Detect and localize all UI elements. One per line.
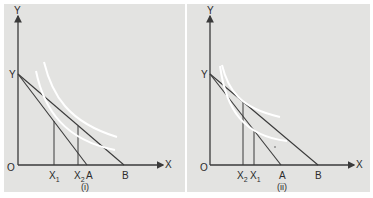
y-axis-label: Y	[207, 6, 214, 16]
point-a-label: A	[86, 171, 93, 181]
stray-dot	[274, 146, 276, 148]
budget-line-yb	[210, 74, 318, 165]
point-b-label: B	[315, 171, 322, 181]
panel-ii-caption: (ii)	[277, 182, 287, 192]
budget-line-diagram	[0, 0, 373, 198]
origin-label: O	[200, 163, 208, 173]
x1-label: X1	[49, 171, 60, 183]
point-a-label: A	[279, 171, 286, 181]
y-axis-label: Y	[14, 6, 21, 16]
point-b-label: B	[122, 171, 129, 181]
indifference-curve-lower	[36, 71, 115, 150]
x-axis-label: X	[165, 160, 172, 170]
origin-label: O	[7, 163, 15, 173]
panel-i-caption: (i)	[81, 182, 89, 192]
y-intercept-label: Y	[201, 70, 208, 80]
panel-i-graph	[18, 16, 163, 165]
y-intercept-label: Y	[9, 70, 16, 80]
indifference-curve-upper	[44, 62, 117, 137]
budget-line-yb	[18, 74, 124, 165]
x1-label: X1	[250, 171, 261, 183]
x2-label: X2	[237, 171, 248, 183]
panel-ii-graph	[210, 16, 354, 165]
x-axis-label: X	[356, 160, 363, 170]
budget-line-ya	[210, 74, 281, 165]
